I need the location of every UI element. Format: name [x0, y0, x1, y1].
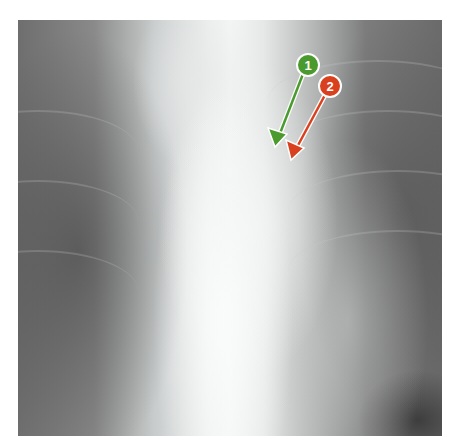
arrow-2: 2 [286, 75, 341, 160]
marker-1-label: 1 [304, 58, 311, 73]
marker-2-label: 2 [326, 79, 333, 94]
arrow-1: 1 [268, 54, 319, 147]
annotation-layer: 1 2 [0, 0, 451, 446]
